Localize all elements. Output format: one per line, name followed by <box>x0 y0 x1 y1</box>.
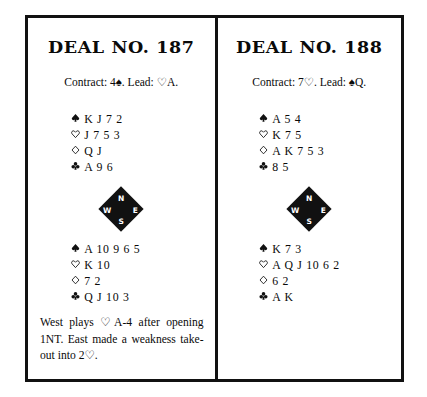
south-spades-187: A 10 9 6 5 <box>84 241 140 257</box>
south-clubs-188: A K <box>272 289 293 305</box>
compass-west-label: W <box>101 207 113 215</box>
north-diamonds-188: A K 7 5 3 <box>272 143 324 159</box>
north-clubs-187: A 9 6 <box>84 159 113 175</box>
south-hearts-row-188: A Q J 10 6 2 <box>259 256 365 272</box>
north-hearts-188: K 7 5 <box>272 127 302 143</box>
club-icon <box>71 288 84 301</box>
north-spades-188: A 5 4 <box>272 111 301 127</box>
club-icon <box>71 158 84 171</box>
club-icon <box>259 288 272 301</box>
compass-east-label: E <box>317 207 329 215</box>
compass-rose-188: N W E S <box>286 186 332 232</box>
deal-panel-188: DEAL NO. 188 Contract: 7♡. Lead: ♠Q. A 5… <box>215 18 402 379</box>
south-diamonds-row-187: 7 2 <box>71 272 177 288</box>
compass-south-label: S <box>115 218 127 226</box>
compass-east-label: E <box>129 207 141 215</box>
north-hand-187: K J 7 2 J 7 5 3 Q <box>28 110 215 174</box>
club-icon <box>259 158 272 171</box>
deal-panel-187: DEAL NO. 187 Contract: 4♠. Lead: ♡A. K J… <box>28 18 215 379</box>
south-diamonds-187: 7 2 <box>84 273 101 289</box>
south-clubs-187: Q J 10 3 <box>84 289 129 305</box>
spade-icon <box>259 110 272 123</box>
diamond-icon <box>71 272 84 285</box>
north-clubs-188: 8 5 <box>272 159 289 175</box>
north-clubs-row-188: 8 5 <box>259 158 365 174</box>
deal-title-188: DEAL NO. 188 <box>218 39 402 57</box>
heart-icon <box>259 126 272 139</box>
south-clubs-row-187: Q J 10 3 <box>71 288 177 304</box>
spade-icon <box>259 240 272 253</box>
north-diamonds-row-188: A K 7 5 3 <box>259 142 365 158</box>
heart-icon <box>71 126 84 139</box>
north-hand-188: A 5 4 K 7 5 A K 7 <box>218 110 402 174</box>
north-diamonds-row-187: Q J <box>71 142 177 158</box>
north-spades-187: K J 7 2 <box>84 111 123 127</box>
diamond-icon <box>71 142 84 155</box>
deal-title-187: DEAL NO. 187 <box>28 39 215 57</box>
south-diamonds-row-188: 6 2 <box>259 272 365 288</box>
spade-icon <box>71 110 84 123</box>
north-hearts-187: J 7 5 3 <box>84 127 120 143</box>
north-spades-row-187: K J 7 2 <box>71 110 177 126</box>
spade-icon <box>71 240 84 253</box>
compass-south-label: S <box>303 218 315 226</box>
north-hearts-row-187: J 7 5 3 <box>71 126 177 142</box>
compass-north-label: N <box>303 195 315 203</box>
south-hearts-row-187: K 10 <box>71 256 177 272</box>
contract-line-188: Contract: 7♡. Lead: ♠Q. <box>218 77 402 89</box>
south-hearts-188: A Q J 10 6 2 <box>272 257 340 273</box>
south-hearts-187: K 10 <box>84 257 110 273</box>
compass-rose-187: N W E S <box>98 186 144 232</box>
south-hand-187: A 10 9 6 5 K 10 7 <box>28 240 215 304</box>
north-diamonds-187: Q J <box>84 143 102 159</box>
compass-west-label: W <box>289 207 301 215</box>
south-hand-188: K 7 3 A Q J 10 6 2 <box>218 240 402 304</box>
south-clubs-row-188: A K <box>259 288 365 304</box>
diamond-icon <box>259 142 272 155</box>
contract-line-187: Contract: 4♠. Lead: ♡A. <box>28 77 215 89</box>
south-spades-row-187: A 10 9 6 5 <box>71 240 177 256</box>
deal-footnote-187: West plays ♡A-4 after opening 1NT. East … <box>40 315 204 365</box>
south-spades-row-188: K 7 3 <box>259 240 365 256</box>
diamond-icon <box>259 272 272 285</box>
south-spades-188: K 7 3 <box>272 241 302 257</box>
north-clubs-row-187: A 9 6 <box>71 158 177 174</box>
north-spades-row-188: A 5 4 <box>259 110 365 126</box>
compass-north-label: N <box>115 195 127 203</box>
heart-icon <box>259 256 272 269</box>
south-diamonds-188: 6 2 <box>272 273 289 289</box>
north-hearts-row-188: K 7 5 <box>259 126 365 142</box>
deal-diagram-frame: DEAL NO. 187 Contract: 4♠. Lead: ♡A. K J… <box>25 15 404 382</box>
heart-icon <box>71 256 84 269</box>
